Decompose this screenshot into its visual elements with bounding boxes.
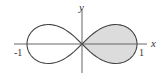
lemniscate-diagram: x y -1 1 (0, 0, 167, 76)
tick-label-neg-one: -1 (14, 47, 22, 58)
tick-label-one: 1 (139, 47, 144, 58)
x-axis-label: x (150, 37, 156, 49)
y-axis-label: y (78, 1, 84, 13)
